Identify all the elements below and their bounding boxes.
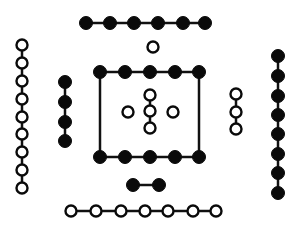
black-dot-icon [119, 151, 132, 164]
white-dot-icon [91, 206, 102, 217]
white-dot-icon [231, 89, 242, 100]
black-dot-icon [272, 148, 285, 161]
white-dot-icon [17, 58, 28, 69]
black-dot-icon [59, 96, 72, 109]
black-dot-icon [272, 128, 285, 141]
black-dot-icon [272, 90, 285, 103]
black-dot-icon [272, 109, 285, 122]
white-dot-icon [116, 206, 127, 217]
white-dot-icon [188, 206, 199, 217]
white-dot-icon [163, 206, 174, 217]
black-dot-icon [272, 50, 285, 63]
black-dot-icon [177, 17, 190, 30]
dots [17, 17, 285, 217]
white-dot-icon [168, 107, 179, 118]
black-dot-icon [169, 66, 182, 79]
black-dot-icon [193, 151, 206, 164]
black-dot-icon [199, 17, 212, 30]
white-dot-icon [231, 107, 242, 118]
white-dot-icon [211, 206, 222, 217]
black-dot-icon [119, 66, 132, 79]
black-dot-icon [193, 66, 206, 79]
white-dot-icon [17, 183, 28, 194]
black-dot-icon [59, 76, 72, 89]
white-dot-icon [140, 206, 151, 217]
black-dot-icon [272, 70, 285, 83]
black-dot-icon [59, 116, 72, 129]
black-dot-icon [144, 151, 157, 164]
white-dot-icon [17, 40, 28, 51]
white-dot-icon [17, 94, 28, 105]
black-dot-icon [59, 135, 72, 148]
white-dot-icon [148, 42, 159, 53]
black-dot-icon [104, 17, 117, 30]
black-dot-icon [272, 187, 285, 200]
white-dot-icon [17, 76, 28, 87]
black-dot-icon [127, 179, 140, 192]
white-dot-icon [66, 206, 77, 217]
black-dot-icon [94, 66, 107, 79]
white-dot-icon [17, 129, 28, 140]
white-dot-icon [231, 124, 242, 135]
white-dot-icon [17, 165, 28, 176]
black-dot-icon [94, 151, 107, 164]
black-dot-icon [152, 17, 165, 30]
white-dot-icon [17, 147, 28, 158]
black-dot-icon [153, 179, 166, 192]
white-dot-icon [145, 123, 156, 134]
black-dot-icon [169, 151, 182, 164]
white-dot-icon [17, 112, 28, 123]
white-dot-icon [145, 106, 156, 117]
white-dot-icon [123, 107, 134, 118]
black-dot-icon [128, 17, 141, 30]
black-dot-icon [144, 66, 157, 79]
black-dot-icon [80, 17, 93, 30]
white-dot-icon [145, 90, 156, 101]
dot-diagram [0, 0, 304, 232]
black-dot-icon [272, 167, 285, 180]
